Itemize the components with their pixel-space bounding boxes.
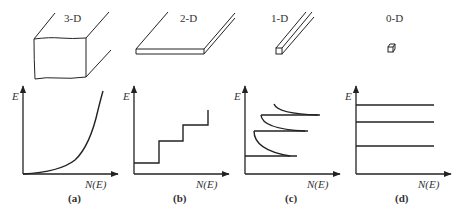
dos-spikes-1d [245,104,320,156]
panel-c: E N(E) (c) [233,86,340,205]
y-axis-label: E [344,90,352,102]
panel-caption-a: (a) [68,192,81,205]
y-axis-label: E [122,90,130,102]
y-axis-label: E [233,90,241,102]
panel-a: E N(E) (a) [11,86,118,205]
panel-caption-d: (d) [395,192,409,205]
panel-d: E N(E) (d) [344,86,451,205]
panel-b: E N(E) (b) [122,86,229,205]
density-of-states-figure: 3-D 2-D 1-D 0-D E N(E) (a) E N(E) (b) [0,0,457,210]
dot-0d-cube-icon [388,44,395,52]
panel-caption-c: (c) [285,192,298,205]
x-axis-label: N(E) [417,178,440,191]
x-axis-label: N(E) [306,178,329,191]
dimension-label-0d: 0-D [386,12,403,24]
x-axis-label: N(E) [84,178,107,191]
x-axis-label: N(E) [195,178,218,191]
panel-caption-b: (b) [173,192,187,205]
dos-curve-3d [23,91,103,174]
y-axis-label: E [11,90,19,102]
dos-staircase-2d [134,110,208,163]
dos-levels-0d [356,105,434,146]
dimension-label-2d: 2-D [180,12,197,24]
dimension-label-1d: 1-D [271,12,288,24]
dimension-label-3d: 3-D [64,12,81,24]
